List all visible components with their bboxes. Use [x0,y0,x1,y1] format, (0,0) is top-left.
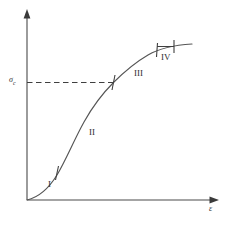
stress-strain-curve [27,44,192,200]
region-label-iii: III [134,69,143,78]
y-axis-label: σc [9,76,16,86]
region-label-iv: IV [161,53,171,62]
y-axis-arrow-icon [24,9,31,19]
region-boundary-tick-3 [157,43,158,57]
y-axis-label-subscript: c [13,80,16,86]
region-label-ii: II [89,128,95,137]
plot-canvas [0,0,231,228]
stress-strain-figure: σc ε I II III IV [0,0,231,228]
x-axis-label: ε [209,205,212,213]
x-axis-arrow-icon [210,197,220,204]
region-label-i: I [48,180,51,189]
